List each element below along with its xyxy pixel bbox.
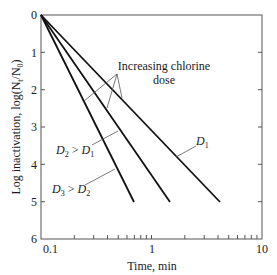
label-d2-gt-d1: D2 > D1 — [55, 143, 94, 159]
x-axis-title: Time, min — [127, 259, 177, 273]
y-tick-2: 2 — [31, 83, 37, 97]
y-tick-3: 3 — [31, 120, 37, 134]
x-ticks — [74, 235, 257, 239]
y-tick-labels: 0 1 2 3 4 5 6 — [31, 8, 37, 246]
y-tick-5: 5 — [31, 195, 37, 209]
line-d1 — [41, 15, 220, 202]
x-tick-0-1: 0.1 — [43, 242, 58, 256]
data-lines — [41, 15, 220, 202]
annotation-increasing-dose: Increasing chlorine — [118, 59, 210, 73]
y-tick-1: 1 — [31, 46, 37, 60]
label-d1: D1 — [195, 134, 209, 150]
inactivation-chart: 0 1 2 3 4 5 6 0.1 1 10 Time, min Log ina… — [0, 0, 277, 275]
x-tick-labels: 0.1 1 10 — [43, 242, 268, 256]
y-tick-6: 6 — [31, 232, 37, 246]
y-axis-title: Log inactivation, log(Nt/N0) — [9, 59, 25, 194]
y-tick-4: 4 — [31, 158, 37, 172]
x-tick-1: 1 — [149, 242, 155, 256]
line-d3 — [41, 15, 134, 202]
y-ticks — [41, 52, 262, 201]
annotation-dose: dose — [153, 73, 175, 87]
label-d3-gt-d2: D3 > D2 — [51, 182, 90, 198]
y-tick-0: 0 — [31, 8, 37, 22]
x-tick-10: 10 — [256, 242, 268, 256]
leader-lines — [84, 74, 196, 185]
